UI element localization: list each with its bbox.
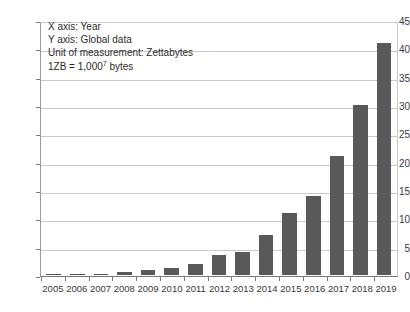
x-axis-tick-label: 2018 <box>350 283 374 295</box>
x-axis-tick-mark <box>160 277 184 282</box>
x-axis-tick-label: 2017 <box>327 283 351 295</box>
x-axis-tick-label: 2006 <box>65 283 89 295</box>
bar <box>164 268 179 275</box>
x-axis-ticks <box>41 277 398 282</box>
annotation-line-unit: Unit of measurement: Zettabytes <box>48 46 263 59</box>
bar <box>188 264 203 275</box>
x-axis-tick-label: 2019 <box>374 283 398 295</box>
bar <box>282 213 297 275</box>
y-axis-tick-label: 25 <box>376 130 410 140</box>
y-axis-tick-label: 20 <box>376 159 410 169</box>
bar <box>46 274 61 275</box>
y-axis-tick-label: 30 <box>376 102 410 112</box>
x-axis-tick-mark <box>89 277 113 282</box>
bar-chart: 051015202530354045 200520062007200820092… <box>0 0 410 312</box>
x-axis-tick-mark <box>112 277 136 282</box>
bar-slot <box>302 23 326 275</box>
x-axis-tick-mark <box>350 277 374 282</box>
bar-slot <box>372 23 396 275</box>
y-axis-tick-mark <box>36 192 40 193</box>
x-axis-tick-label: 2013 <box>231 283 255 295</box>
chart-annotation: X axis: Year Y axis: Global data Unit of… <box>48 20 263 73</box>
annotation-line-y-axis: Y axis: Global data <box>48 33 263 46</box>
x-axis-tick-label: 2007 <box>89 283 113 295</box>
bar <box>330 156 345 275</box>
x-axis-tick-mark <box>65 277 89 282</box>
bar <box>235 252 250 275</box>
x-axis-labels: 2005200620072008200920102011201220132014… <box>41 283 398 295</box>
bar <box>94 274 109 275</box>
bar-slot <box>349 23 373 275</box>
x-axis-tick-mark <box>327 277 351 282</box>
bar <box>306 196 321 275</box>
conversion-suffix: bytes <box>107 61 134 72</box>
y-axis-tick-label: 40 <box>376 45 410 55</box>
x-axis-tick-mark <box>184 277 208 282</box>
y-axis-tick-mark <box>36 135 40 136</box>
x-axis-tick-label: 2015 <box>279 283 303 295</box>
bar-slot <box>278 23 302 275</box>
x-axis-tick-mark <box>374 277 398 282</box>
x-axis-tick-mark <box>231 277 255 282</box>
y-axis-tick-mark <box>36 79 40 80</box>
bar <box>353 105 368 275</box>
bar <box>117 272 132 275</box>
y-axis-tick-mark <box>36 164 40 165</box>
y-axis-tick-mark <box>36 50 40 51</box>
x-axis-tick-label: 2016 <box>303 283 327 295</box>
bar <box>141 270 156 275</box>
y-axis-tick-mark <box>36 249 40 250</box>
conversion-prefix: 1ZB = 1,000 <box>48 61 103 72</box>
y-axis-tick-mark <box>36 22 40 23</box>
y-axis-tick-label: 5 <box>376 244 410 254</box>
x-axis-tick-mark <box>41 277 65 282</box>
y-axis-tick-mark <box>36 107 40 108</box>
y-axis-tick-mark <box>36 220 40 221</box>
x-axis-tick-label: 2012 <box>208 283 232 295</box>
x-axis-tick-label: 2014 <box>255 283 279 295</box>
x-axis-tick-mark <box>255 277 279 282</box>
x-axis-tick-mark <box>208 277 232 282</box>
bar <box>259 235 274 275</box>
bar <box>212 255 227 275</box>
annotation-line-x-axis: X axis: Year <box>48 20 263 33</box>
x-axis-tick-mark <box>136 277 160 282</box>
bar <box>70 274 85 275</box>
x-axis-tick-label: 2005 <box>41 283 65 295</box>
x-axis-tick-label: 2010 <box>160 283 184 295</box>
x-axis-tick-mark <box>303 277 327 282</box>
x-axis-tick-mark <box>279 277 303 282</box>
y-axis-tick-label: 15 <box>376 187 410 197</box>
y-axis-tick-label: 10 <box>376 215 410 225</box>
y-axis-tick-label: 45 <box>376 17 410 27</box>
bar-slot <box>325 23 349 275</box>
x-axis-tick-label: 2011 <box>184 283 208 295</box>
x-axis-tick-label: 2008 <box>112 283 136 295</box>
annotation-line-conversion: 1ZB = 1,0007 bytes <box>48 60 263 73</box>
y-axis-tick-label: 35 <box>376 74 410 84</box>
x-axis-tick-label: 2009 <box>136 283 160 295</box>
y-axis-tick-mark <box>36 277 40 278</box>
